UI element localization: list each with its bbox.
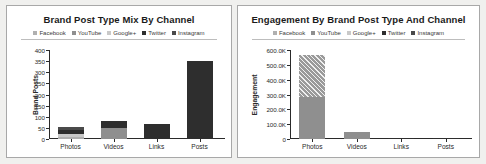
y-axis-line-left	[49, 50, 50, 139]
legend-swatch-icon	[172, 31, 176, 35]
x-axis-tick	[157, 139, 158, 142]
y-axis-tick	[46, 61, 49, 62]
legend-item-youtube[interactable]: YouTube	[311, 30, 341, 36]
bar-links[interactable]	[144, 124, 170, 139]
y-axis-title-right: Engagement	[251, 74, 258, 115]
legend-item-label: Instagram	[417, 30, 444, 36]
dashboard-root: Brand Post Type Mix By Channel FacebookY…	[0, 0, 486, 164]
y-axis-tick-label: 400.0K	[266, 76, 286, 83]
chart-panel-engagement: Engagement By Brand Post Type And Channe…	[237, 5, 480, 158]
y-axis-tick-label: 100	[35, 113, 45, 120]
bar-posts[interactable]	[187, 61, 213, 139]
bar-segment-twitter	[101, 121, 127, 128]
legend-item-instagram[interactable]: Instagram	[172, 30, 205, 36]
y-axis-tick-label: 300.0K	[266, 91, 286, 98]
bar-segment-youtube	[101, 128, 127, 139]
legend-swatch-icon	[382, 31, 386, 35]
y-axis-tick	[46, 106, 49, 107]
y-axis-tick-label: 100.0K	[266, 121, 286, 128]
bar-segment-googleplus	[58, 134, 84, 137]
y-axis-tick	[287, 50, 290, 51]
x-axis-tick	[200, 139, 201, 142]
bar-photos[interactable]	[299, 55, 325, 139]
y-axis-tick	[46, 83, 49, 84]
y-axis-tick	[46, 139, 49, 140]
bar-segment-twitter	[144, 124, 170, 139]
y-axis-tick	[287, 139, 290, 140]
chart-title-right: Engagement By Brand Post Type And Channe…	[238, 14, 479, 25]
legend-item-label: Google+	[353, 30, 376, 36]
bar-videos[interactable]	[101, 121, 127, 139]
x-axis-tick	[446, 139, 447, 142]
legend-swatch-icon	[72, 31, 76, 35]
bar-photos[interactable]	[58, 127, 84, 139]
y-axis-tick	[46, 128, 49, 129]
legend-swatch-icon	[142, 31, 146, 35]
y-axis-tick-label: 400	[35, 47, 45, 54]
y-axis-tick-label: 350	[35, 58, 45, 65]
bar-videos[interactable]	[344, 132, 370, 139]
legend-item-twitter[interactable]: Twitter	[382, 30, 406, 36]
legend-swatch-icon	[107, 31, 111, 35]
chart-legend-right: FacebookYouTubeGoogle+TwitterInstagram	[252, 30, 465, 40]
legend-swatch-icon	[311, 31, 315, 35]
chart-title-left: Brand Post Type Mix By Channel	[7, 14, 231, 25]
y-axis-tick-label: 200.0K	[266, 106, 286, 113]
plot-area-left: Brand Posts 050100150200250300350400Phot…	[49, 50, 221, 139]
x-axis-tick	[357, 139, 358, 142]
y-axis-tick	[46, 95, 49, 96]
y-axis-tick-label: 200	[35, 91, 45, 98]
legend-item-label: YouTube	[78, 30, 102, 36]
y-axis-tick-label: 150	[35, 102, 45, 109]
y-axis-tick-label: 600.0K	[266, 47, 286, 54]
bar-segment-youtube	[344, 132, 370, 139]
x-axis-tick-label: Links	[149, 143, 164, 150]
legend-item-label: Instagram	[178, 30, 205, 36]
y-axis-tick-label: 50	[38, 124, 45, 131]
y-axis-tick	[287, 65, 290, 66]
legend-item-twitter[interactable]: Twitter	[142, 30, 166, 36]
y-axis-tick	[287, 95, 290, 96]
legend-item-instagram[interactable]: Instagram	[411, 30, 444, 36]
y-axis-tick	[46, 117, 49, 118]
legend-swatch-icon	[411, 31, 415, 35]
y-axis-tick-label: 500.0K	[266, 61, 286, 68]
bar-segment-googleplus	[299, 55, 325, 97]
y-axis-tick	[287, 124, 290, 125]
x-axis-tick-label: Links	[394, 143, 409, 150]
bar-segment-instagram	[58, 127, 84, 129]
legend-item-facebook[interactable]: Facebook	[273, 30, 305, 36]
chart-legend-left: FacebookYouTubeGoogle+TwitterInstagram	[21, 30, 217, 40]
y-axis-tick	[287, 80, 290, 81]
legend-swatch-icon	[273, 31, 277, 35]
legend-item-label: Twitter	[388, 30, 406, 36]
legend-item-facebook[interactable]: Facebook	[33, 30, 65, 36]
y-axis-tick	[287, 109, 290, 110]
y-axis-tick	[46, 72, 49, 73]
x-axis-tick-label: Photos	[302, 143, 323, 150]
x-axis-tick	[71, 139, 72, 142]
x-axis-tick-label: Posts	[191, 143, 208, 150]
x-axis-tick-label: Photos	[60, 143, 81, 150]
chart-panel-brand-post-type-mix: Brand Post Type Mix By Channel FacebookY…	[6, 5, 232, 158]
plot-area-right: Engagement 0100.0K200.0K300.0K400.0K500.…	[290, 50, 468, 139]
y-axis-tick-label: 250	[35, 80, 45, 87]
legend-item-label: Facebook	[279, 30, 305, 36]
x-axis-tick-label: Posts	[438, 143, 455, 150]
y-axis-tick-label: 300	[35, 69, 45, 76]
bar-segment-twitter	[187, 61, 213, 139]
legend-item-googleplus[interactable]: Google+	[347, 30, 376, 36]
legend-item-googleplus[interactable]: Google+	[107, 30, 136, 36]
y-axis-tick	[46, 50, 49, 51]
legend-swatch-icon	[347, 31, 351, 35]
x-axis-tick	[312, 139, 313, 142]
legend-swatch-icon	[33, 31, 37, 35]
legend-item-label: Google+	[113, 30, 136, 36]
y-axis-tick-label: 0	[283, 136, 286, 143]
x-axis-tick-label: Videos	[103, 143, 123, 150]
x-axis-tick	[114, 139, 115, 142]
x-axis-tick	[401, 139, 402, 142]
legend-item-youtube[interactable]: YouTube	[72, 30, 102, 36]
y-axis-tick-label: 0	[42, 136, 45, 143]
legend-item-label: YouTube	[317, 30, 341, 36]
